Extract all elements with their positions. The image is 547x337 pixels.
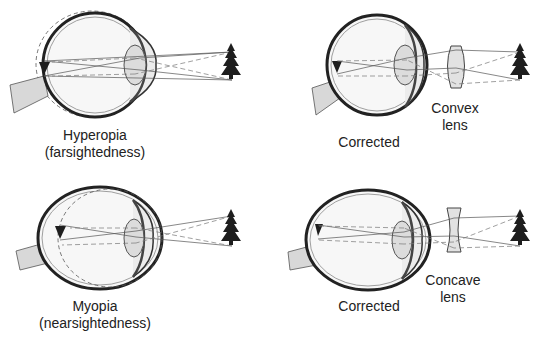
corrected-hyperopia-title: Corrected bbox=[338, 134, 399, 151]
tree-icon bbox=[221, 209, 241, 245]
tree-icon bbox=[510, 209, 530, 245]
convex-lens-label: Convex lens bbox=[431, 100, 478, 134]
lens-label: lens bbox=[425, 289, 480, 306]
panel-hyperopia bbox=[10, 11, 241, 117]
concave-lens bbox=[447, 208, 461, 252]
tree-icon bbox=[221, 43, 241, 79]
corrected-myopia-title: Corrected bbox=[338, 298, 399, 315]
panel-hyperopia-corrected bbox=[312, 15, 530, 115]
eye-lens bbox=[124, 45, 146, 85]
convex-label: Convex bbox=[431, 100, 478, 117]
hyperopia-label: Hyperopia bbox=[45, 127, 145, 144]
concave-lens-label: Concave lens bbox=[425, 272, 480, 306]
optic-nerve bbox=[10, 76, 48, 113]
eye-lens bbox=[394, 45, 416, 85]
concave-label: Concave bbox=[425, 272, 480, 289]
myopia-title: Myopia (nearsightedness) bbox=[39, 298, 151, 332]
farsightedness-label: (farsightedness) bbox=[45, 144, 145, 161]
panel-myopia bbox=[16, 187, 241, 289]
panel-myopia-corrected bbox=[288, 190, 530, 290]
tree-icon bbox=[510, 43, 530, 79]
hyperopia-title: Hyperopia (farsightedness) bbox=[45, 127, 145, 161]
eye-lens bbox=[392, 221, 412, 259]
myopia-label: Myopia bbox=[39, 298, 151, 315]
convex-lens bbox=[448, 46, 465, 88]
nearsightedness-label: (nearsightedness) bbox=[39, 315, 151, 332]
lens-label: lens bbox=[431, 117, 478, 134]
eye-lens bbox=[124, 219, 144, 257]
